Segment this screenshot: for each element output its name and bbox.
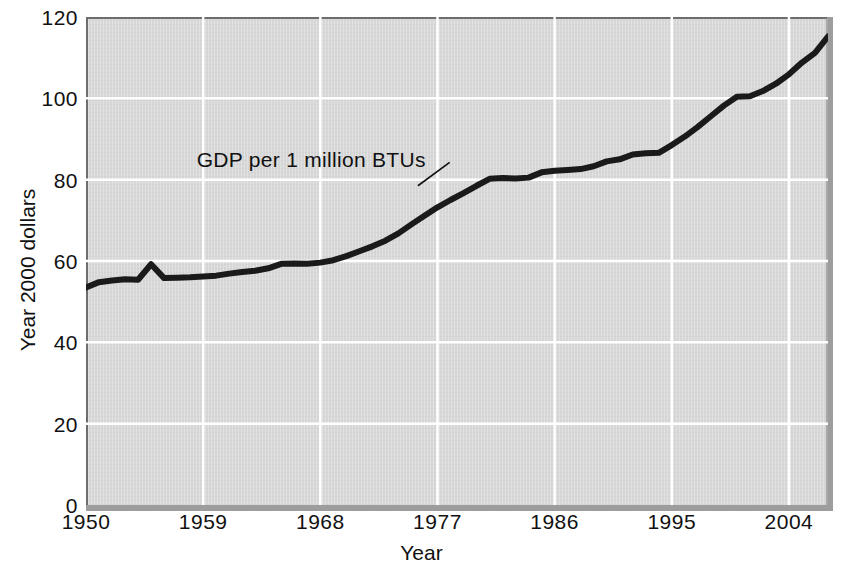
series-annotation-label: GDP per 1 million BTUs (197, 148, 426, 172)
y-axis-title: Year 2000 dollars (16, 150, 40, 390)
x-axis-title: Year (0, 541, 843, 565)
horizontal-gridlines (86, 98, 828, 423)
x-tick-label: 2004 (765, 511, 814, 532)
y-tick-label: 100 (28, 88, 78, 109)
y-tick-label: 20 (28, 414, 78, 435)
x-tick-label: 1986 (530, 511, 579, 532)
chart-plot-svg (86, 17, 828, 505)
x-tick-label: 1995 (647, 511, 696, 532)
x-tick-label: 1968 (296, 511, 345, 532)
x-tick-label: 1950 (62, 511, 111, 532)
x-axis-tick-labels: 1950195919681977198619952004 (0, 511, 843, 541)
plot-shadow-right (828, 17, 833, 511)
y-tick-label: 120 (28, 7, 78, 28)
x-tick-label: 1977 (413, 511, 462, 532)
x-tick-label: 1959 (179, 511, 228, 532)
chart-figure: 020406080100120 Year 2000 dollars GDP pe… (0, 0, 843, 570)
plot-area-wrapper: GDP per 1 million BTUs (86, 17, 828, 505)
